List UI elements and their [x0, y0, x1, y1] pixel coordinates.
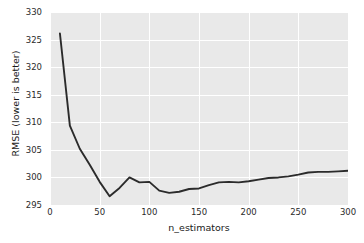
y-tick-label: 305 [0, 146, 42, 155]
plot-area [50, 12, 348, 205]
chart-figure: RMSE (lower is better) 29530030531031532… [0, 0, 364, 243]
x-tick-label: 0 [30, 208, 70, 217]
x-axis-label: n_estimators [50, 222, 348, 233]
x-tick-label: 200 [229, 208, 269, 217]
y-tick-label: 325 [0, 36, 42, 45]
series-line-rmse [50, 12, 348, 205]
y-axis-label-container: RMSE (lower is better) [2, 0, 16, 217]
x-tick-label: 250 [278, 208, 318, 217]
x-tick-label: 50 [80, 208, 120, 217]
y-tick-label: 300 [0, 173, 42, 182]
y-tick-label: 310 [0, 118, 42, 127]
x-tick-label: 300 [328, 208, 364, 217]
y-tick-label: 330 [0, 8, 42, 17]
y-axis-label: RMSE (lower is better) [10, 29, 21, 179]
x-tick-label: 150 [179, 208, 219, 217]
y-tick-label: 315 [0, 91, 42, 100]
x-tick-label: 100 [129, 208, 169, 217]
y-tick-label: 320 [0, 63, 42, 72]
